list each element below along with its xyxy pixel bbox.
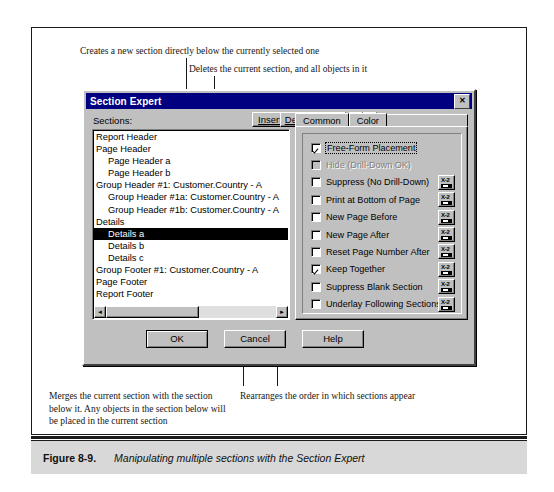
formula-icon-label: X-2 xyxy=(441,229,449,235)
section-list-item[interactable]: Group Header #1b: Customer.Country - A xyxy=(94,204,288,216)
ok-button[interactable]: OK xyxy=(146,330,208,348)
formula-button[interactable]: X-2 xyxy=(438,279,455,294)
checkbox-icon[interactable] xyxy=(311,247,321,257)
formula-icon-bar xyxy=(441,306,452,310)
formula-button[interactable]: X-2 xyxy=(438,227,455,242)
sections-list-frame: Report HeaderPage HeaderPage Header aPag… xyxy=(92,129,290,320)
formula-icon-label: X-2 xyxy=(441,212,449,218)
option-label: Free-Form Placement xyxy=(326,143,416,153)
sections-label: Sections: xyxy=(93,115,132,126)
formula-icon-bar xyxy=(441,201,452,205)
option-label: Keep Together xyxy=(326,264,385,274)
section-list-item[interactable]: Details c xyxy=(94,252,288,264)
callout-arrows-text: Rearranges the order in which sections a… xyxy=(240,390,480,403)
section-list-item[interactable]: Details b xyxy=(94,240,288,252)
formula-icon-bar xyxy=(441,184,452,188)
option-label: New Page After xyxy=(326,230,389,240)
cancel-button[interactable]: Cancel xyxy=(224,330,286,348)
options-group: Free-Form PlacementHide (Drill-Down OK)S… xyxy=(302,133,462,314)
option-row[interactable]: Hide (Drill-Down OK) xyxy=(311,156,411,173)
option-row[interactable]: Print at Bottom of Page xyxy=(311,191,420,208)
formula-icon-bar xyxy=(441,288,452,292)
checkbox-icon[interactable] xyxy=(311,177,321,187)
option-row[interactable]: Suppress Blank Section xyxy=(311,278,423,295)
checkbox-icon[interactable] xyxy=(311,299,321,309)
option-label: Print at Bottom of Page xyxy=(326,195,420,205)
figure-number: Figure 8-9. xyxy=(43,452,96,464)
formula-icon-label: X-2 xyxy=(441,246,449,252)
scrollbar-thumb[interactable] xyxy=(106,306,199,318)
option-label: Reset Page Number After xyxy=(326,247,430,257)
section-list-item[interactable]: Report Footer xyxy=(94,288,288,300)
option-row[interactable]: Free-Form Placement xyxy=(311,139,416,156)
section-list-item[interactable]: Page Header b xyxy=(94,167,288,179)
section-list-item[interactable]: Report Header xyxy=(94,131,288,143)
formula-icon-label: X-2 xyxy=(441,299,449,305)
callout-insert-text: Creates a new section directly below the… xyxy=(80,45,460,58)
formula-icon-bar xyxy=(441,271,452,275)
sections-horizontal-scrollbar[interactable]: ◄ ► xyxy=(94,306,288,318)
checkbox-icon xyxy=(311,160,321,170)
dialog-title: Section Expert xyxy=(88,96,161,107)
callout-merge-text: Merges the current section with the sect… xyxy=(49,390,234,428)
formula-icon-label: X-2 xyxy=(441,177,449,183)
checkbox-icon[interactable] xyxy=(311,282,321,292)
checkbox-icon[interactable] xyxy=(311,230,321,240)
section-list-item[interactable]: Page Header a xyxy=(94,155,288,167)
formula-icon-bar xyxy=(441,253,452,257)
caption-rule xyxy=(31,436,527,439)
tab-common[interactable]: Common xyxy=(295,113,349,127)
dialog-titlebar[interactable]: Section Expert ✕ xyxy=(86,93,472,109)
section-list-item[interactable]: Group Header #1a: Customer.Country - A xyxy=(94,191,288,203)
scrollbar-track[interactable] xyxy=(106,306,276,318)
option-row[interactable]: Suppress (No Drill-Down) xyxy=(311,174,429,191)
scroll-right-icon[interactable]: ► xyxy=(276,306,288,318)
option-label: New Page Before xyxy=(326,212,397,222)
formula-button[interactable]: X-2 xyxy=(438,210,455,225)
option-row[interactable]: Keep Together xyxy=(311,261,385,278)
formula-icon-bar xyxy=(441,219,452,223)
section-list-item[interactable]: Group Footer #1: Customer.Country - A xyxy=(94,264,288,276)
figure-title: Manipulating multiple sections with the … xyxy=(114,452,364,464)
option-row[interactable]: Reset Page Number After xyxy=(311,243,430,260)
checkbox-icon[interactable] xyxy=(311,264,321,274)
formula-button[interactable]: X-2 xyxy=(438,175,455,190)
section-list-item[interactable]: Page Header xyxy=(94,143,288,155)
formula-icon-bar xyxy=(441,236,452,240)
option-label: Hide (Drill-Down OK) xyxy=(326,160,411,170)
checkbox-icon[interactable] xyxy=(311,212,321,222)
tab-color[interactable]: Color xyxy=(349,113,387,127)
tab-strip: CommonColor xyxy=(295,113,468,127)
option-row[interactable]: New Page Before xyxy=(311,209,397,226)
option-label: Suppress (No Drill-Down) xyxy=(326,177,429,187)
checkbox-icon[interactable] xyxy=(311,143,321,153)
formula-button[interactable]: X-2 xyxy=(438,192,455,207)
option-label: Suppress Blank Section xyxy=(326,282,423,292)
close-icon[interactable]: ✕ xyxy=(454,94,470,109)
formula-button[interactable]: X-2 xyxy=(438,262,455,277)
formula-button[interactable]: X-2 xyxy=(438,297,455,312)
callout-delete-text: Deletes the current section, and all obj… xyxy=(189,63,489,76)
section-list-item[interactable]: Details xyxy=(94,216,288,228)
formula-icon-label: X-2 xyxy=(441,194,449,200)
tab-panel-common: Free-Form PlacementHide (Drill-Down OK)S… xyxy=(295,126,468,320)
option-row[interactable]: Underlay Following Sections xyxy=(311,296,441,313)
option-label: Underlay Following Sections xyxy=(326,299,441,309)
section-expert-dialog: Section Expert ✕ Sections: Insert Delete… xyxy=(82,89,476,366)
figure-caption-bar: Figure 8-9. Manipulating multiple sectio… xyxy=(31,440,527,474)
formula-button[interactable]: X-2 xyxy=(438,244,455,259)
option-row[interactable]: New Page After xyxy=(311,226,389,243)
insert-button-label: Insert xyxy=(258,114,282,125)
sections-list[interactable]: Report HeaderPage HeaderPage Header aPag… xyxy=(94,131,288,306)
section-list-item[interactable]: Group Header #1: Customer.Country - A xyxy=(94,179,288,191)
formula-icon-label: X-2 xyxy=(441,264,449,270)
section-list-item[interactable]: Page Footer xyxy=(94,276,288,288)
scroll-left-icon[interactable]: ◄ xyxy=(94,306,106,318)
help-button[interactable]: Help xyxy=(302,330,364,348)
checkbox-icon[interactable] xyxy=(311,195,321,205)
section-list-item[interactable]: Details a xyxy=(94,228,288,240)
formula-icon-label: X-2 xyxy=(441,281,449,287)
